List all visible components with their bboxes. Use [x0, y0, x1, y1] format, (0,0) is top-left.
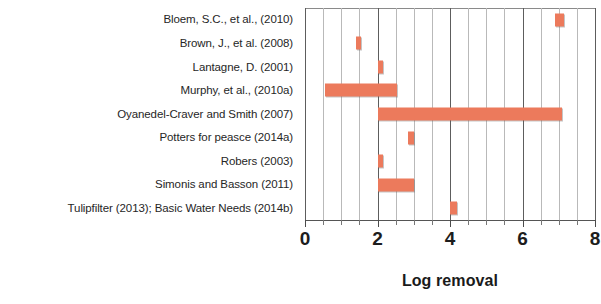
- minor-tick: [323, 220, 324, 225]
- bar: [450, 202, 457, 215]
- category-label: Lantagne, D. (2001): [0, 55, 300, 79]
- minor-tick: [341, 220, 342, 225]
- x-tick-label: 8: [590, 228, 601, 250]
- category-label: Potters for peasce (2014a): [0, 126, 300, 150]
- category-axis-labels: Bloem, S.C., et al., (2010)Brown, J., et…: [0, 8, 300, 220]
- bar-row: [305, 55, 595, 79]
- bar: [555, 13, 564, 26]
- minor-tick: [559, 220, 560, 225]
- x-tick-label: 6: [517, 228, 528, 250]
- major-tick: [523, 220, 524, 227]
- bar: [378, 178, 414, 191]
- minor-tick: [359, 220, 360, 225]
- bar: [378, 155, 383, 168]
- category-label: Bloem, S.C., et al., (2010): [0, 8, 300, 32]
- x-axis-title: Log removal: [305, 272, 595, 290]
- bar-row: [305, 32, 595, 56]
- x-tick-label: 4: [445, 228, 456, 250]
- category-label: Robers (2003): [0, 149, 300, 173]
- plot-area: [305, 8, 595, 220]
- bar-row: [305, 79, 595, 103]
- log-removal-bar-chart: Bloem, S.C., et al., (2010)Brown, J., et…: [0, 0, 601, 304]
- minor-tick: [468, 220, 469, 225]
- minor-tick: [504, 220, 505, 225]
- x-tick-label: 2: [372, 228, 383, 250]
- bar: [378, 108, 563, 121]
- x-axis-tick-labels: 02468: [305, 228, 595, 254]
- minor-tick: [577, 220, 578, 225]
- minor-tick: [486, 220, 487, 225]
- bar-row: [305, 8, 595, 32]
- bar-row: [305, 149, 595, 173]
- bar: [325, 84, 398, 97]
- category-label: Brown, J., et al. (2008): [0, 32, 300, 56]
- bar: [378, 60, 383, 73]
- major-gridline: [595, 8, 596, 220]
- category-label: Simonis and Basson (2011): [0, 173, 300, 197]
- minor-tick: [432, 220, 433, 225]
- major-tick: [378, 220, 379, 227]
- category-label: Tulipfilter (2013); Basic Water Needs (2…: [0, 197, 300, 221]
- x-axis-ticks: [305, 220, 595, 227]
- minor-tick: [396, 220, 397, 225]
- bars-layer: [305, 8, 595, 220]
- bar-row: [305, 126, 595, 150]
- major-tick: [595, 220, 596, 227]
- bar-row: [305, 173, 595, 197]
- bar: [408, 131, 413, 144]
- minor-tick: [414, 220, 415, 225]
- minor-tick: [541, 220, 542, 225]
- bar-row: [305, 197, 595, 221]
- bar-row: [305, 102, 595, 126]
- category-label: Murphy, et al., (2010a): [0, 79, 300, 103]
- x-tick-label: 0: [300, 228, 311, 250]
- major-tick: [450, 220, 451, 227]
- category-label: Oyanedel-Craver and Smith (2007): [0, 102, 300, 126]
- bar: [356, 37, 361, 50]
- major-tick: [305, 220, 306, 227]
